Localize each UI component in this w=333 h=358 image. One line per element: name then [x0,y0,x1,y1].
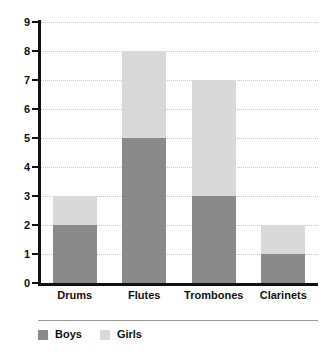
stacked-bar-chart: 0123456789 DrumsFlutesTrombonesClarinets… [0,0,333,358]
bar-segment-girls[interactable] [192,80,236,196]
y-axis-tick-label: 0 [0,278,30,289]
bar-segment-boys[interactable] [53,225,97,283]
chart-legend: BoysGirls [38,329,142,340]
bar-stack[interactable] [261,22,305,283]
y-axis-tick-label-text: 8 [8,46,30,57]
bar-stack[interactable] [122,22,166,283]
bar-stack[interactable] [53,22,97,283]
bar-segment-girls[interactable] [122,51,166,138]
bar-segment-boys[interactable] [192,196,236,283]
y-axis-tick-label: 4 [0,162,30,173]
y-axis-tick-label: 1 [0,249,30,260]
bars-layer [40,22,318,283]
legend-item-boys[interactable]: Boys [38,329,82,340]
y-axis-tick-label: 8 [0,46,30,57]
y-axis-tick-label-text: 4 [8,162,30,173]
y-axis-tick-label-text: 2 [8,220,30,231]
y-axis-tick-label: 9 [0,17,30,28]
y-axis-tick-label-text: 6 [8,104,30,115]
legend-label-girls: Girls [117,329,142,340]
y-axis-tick-label-text: 9 [8,17,30,28]
x-axis-label-clarinets: Clarinets [233,290,333,301]
y-axis-tick-label-text: 0 [8,278,30,289]
legend-divider [38,320,318,321]
legend-label-boys: Boys [55,329,82,340]
legend-swatch-boys [38,330,48,340]
y-axis-tick-label-text: 3 [8,191,30,202]
bar-segment-boys[interactable] [122,138,166,283]
y-axis-tick-label: 3 [0,191,30,202]
y-axis-tick-label: 7 [0,75,30,86]
y-axis-tick-label: 2 [0,220,30,231]
bar-segment-girls[interactable] [53,196,97,225]
bar-stack[interactable] [192,22,236,283]
y-axis-tick-label: 5 [0,133,30,144]
y-axis-tick-label-text: 1 [8,249,30,260]
legend-swatch-girls [100,330,110,340]
y-axis-tick-label-text: 5 [8,133,30,144]
bar-segment-girls[interactable] [261,225,305,254]
y-axis-tick-label-text: 7 [8,75,30,86]
x-axis-line [38,283,318,286]
bar-segment-boys[interactable] [261,254,305,283]
legend-item-girls[interactable]: Girls [100,329,142,340]
y-axis-tick-label: 6 [0,104,30,115]
